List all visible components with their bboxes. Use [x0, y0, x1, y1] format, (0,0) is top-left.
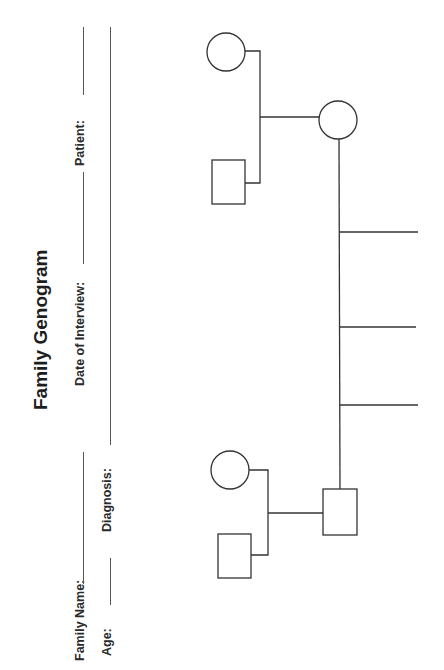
father-square[interactable]	[323, 489, 357, 535]
top-marriage-line	[245, 51, 260, 183]
parents-marriage-line	[339, 139, 340, 489]
grandmother-top-circle[interactable]	[207, 33, 245, 71]
genogram-diagram	[0, 0, 444, 670]
bottom-marriage-line	[249, 470, 268, 555]
grandfather-top-square[interactable]	[212, 160, 245, 204]
mother-circle[interactable]	[319, 101, 357, 139]
grandmother-bottom-circle[interactable]	[211, 451, 249, 489]
grandfather-bottom-square[interactable]	[218, 534, 251, 578]
